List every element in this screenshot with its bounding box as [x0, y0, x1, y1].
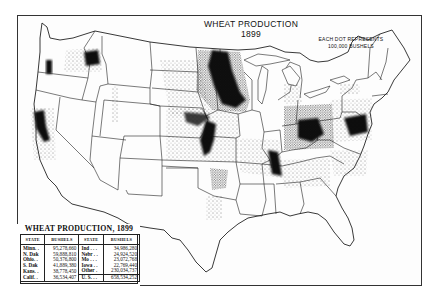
- bushels-cell: 36,534,407: [45, 274, 79, 281]
- map-title-text: WHEAT PRODUCTION: [196, 19, 306, 29]
- wheat-dot-clusters: [30, 48, 372, 220]
- dot-note-line2: 100,000 BUSHELS: [306, 43, 396, 50]
- production-table-panel: WHEAT PRODUCTION, 1899 STATE BUSHELS STA…: [17, 224, 140, 286]
- dot-note-line1: EACH DOT REPRESENTS: [306, 36, 396, 43]
- map-title-year: 1899: [196, 29, 306, 39]
- header-state-left: STATE: [21, 235, 45, 245]
- production-table: STATE BUSHELS STATE BUSHELS Minn. . 95,2…: [20, 234, 140, 282]
- total-state-cell: U. S. . .: [79, 274, 103, 281]
- table-row: Calif. . 36,534,407 U. S. . . 658,534,25…: [21, 274, 140, 281]
- header-bushels-left: BUSHELS: [45, 235, 79, 245]
- state-cell: Calif. .: [21, 274, 45, 281]
- dot-legend-note: EACH DOT REPRESENTS 100,000 BUSHELS: [306, 36, 396, 49]
- header-state-right: STATE: [79, 235, 103, 245]
- production-table-title: WHEAT PRODUCTION, 1899: [19, 224, 139, 233]
- header-bushels-right: BUSHELS: [103, 235, 139, 245]
- map-title: WHEAT PRODUCTION 1899: [196, 19, 306, 39]
- total-bushels-cell: 658,534,252: [103, 274, 139, 281]
